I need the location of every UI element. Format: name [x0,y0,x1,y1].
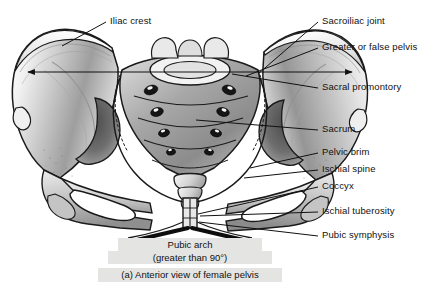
label-sacral-promontory: Sacral promontory [322,81,401,92]
leader-ischial-spine [244,170,318,178]
label-pelvic-brim: Pelvic brim [322,146,370,157]
label-coccyx: Coccyx [322,180,354,191]
label-ischial-spine: Ischial spine [322,163,376,174]
annotation-pubic-arch: Pubic arch [118,239,262,251]
label-greater-or-false-pelvis: Greater or false pelvis [322,41,417,52]
label-sacroiliac-joint: Sacroiliac joint [322,15,385,26]
label-ischial-tuberosity: Ischial tuberosity [322,205,395,216]
pelvis-figure: Iliac crest Sacroiliac joint Greater or … [0,0,445,295]
sacrum [115,38,265,180]
lumbar-vertebra [151,38,178,58]
label-sacrum: Sacrum [322,123,355,134]
annotation-pubic-arch-angle: (greater than 90°) [108,252,272,264]
label-pubic-symphysis: Pubic symphysis [322,229,394,240]
left-hip-bone [12,29,152,230]
figure-caption: (a) Anterior view of female pelvis [98,269,282,281]
label-iliac-crest: Iliac crest [110,15,151,26]
